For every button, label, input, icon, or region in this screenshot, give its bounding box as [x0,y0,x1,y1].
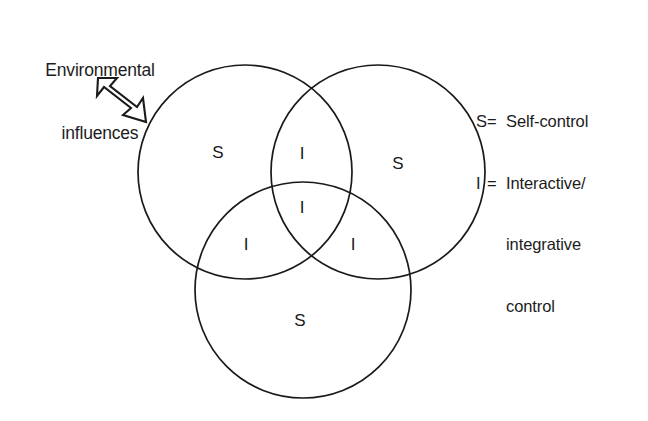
legend-key-s: S [476,111,487,132]
top-right-circle [271,65,485,279]
legend: S=Self-control I=Interactive/ integrativ… [476,70,588,357]
region-label-bottom-only: S [294,312,305,329]
legend-text-i: Interactive/ [506,174,586,192]
caption-line-2: influences [30,123,170,144]
legend-key-i: I [476,173,487,194]
legend-row-s: S=Self-control [476,111,588,132]
caption-line-1: Environmental [30,60,170,81]
legend-continuation-1: integrative [476,234,588,255]
legend-continuation-2: control [476,296,588,317]
environmental-influences-caption: Environmental influences [30,18,170,186]
region-label-top-left-only: S [212,144,223,161]
legend-text-s: Self-control [506,112,588,130]
legend-equals-s: = [487,111,506,132]
region-label-top-left-and-bottom: I [244,236,249,253]
region-label-top-right-and-bottom: I [351,236,356,253]
venn-diagram-figure: Environmental influences S=Self-control … [0,0,648,421]
legend-row-i: I=Interactive/ [476,173,588,194]
region-label-top-right-only: S [392,155,403,172]
region-label-center-all-three: I [300,199,305,216]
legend-equals-i: = [487,173,506,194]
region-label-top-left-and-top-right: I [300,145,305,162]
